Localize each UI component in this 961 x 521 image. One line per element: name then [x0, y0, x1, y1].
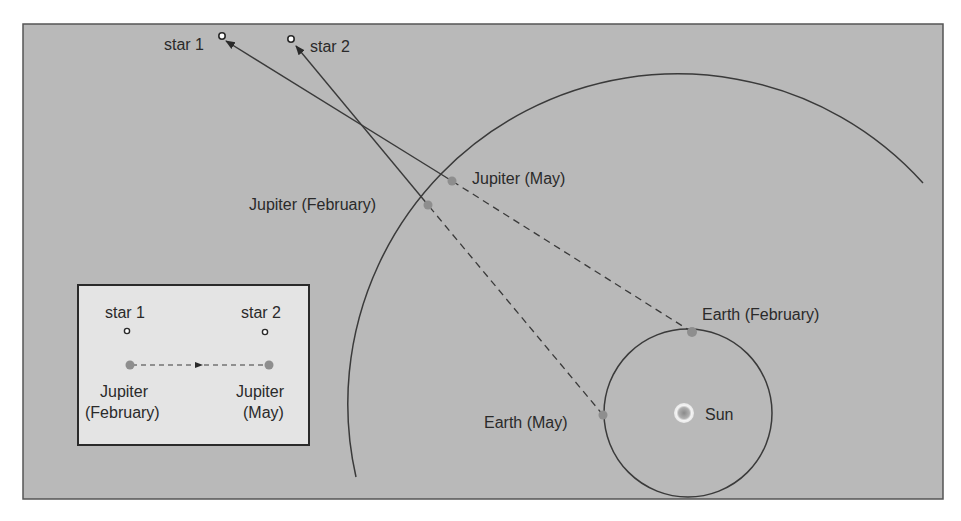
- jupiter-may-label: Jupiter (May): [472, 170, 565, 187]
- star2-icon: [288, 36, 294, 42]
- star1-label: star 1: [164, 36, 204, 53]
- earth-february-label: Earth (February): [702, 306, 819, 323]
- sun-label: Sun: [705, 406, 733, 423]
- inset-jupiter-may-label-1: Jupiter: [236, 383, 285, 400]
- retrograde-motion-diagram: star 1 star 2 Jupiter (May) Jupiter (Feb…: [0, 0, 961, 521]
- earth-may-dot: [599, 411, 608, 420]
- jupiter-may-dot: [448, 177, 457, 186]
- inset-star2-icon: [262, 329, 267, 334]
- star2-label: star 2: [310, 38, 350, 55]
- sun-icon: [674, 403, 694, 423]
- inset-star2-label: star 2: [241, 304, 281, 321]
- star1-icon: [219, 33, 225, 39]
- inset-jupiter-feb-label-1: Jupiter: [100, 383, 149, 400]
- inset-jupiter-may-label-2: (May): [243, 404, 284, 421]
- inset-jupiter-may-dot: [265, 361, 274, 370]
- jupiter-february-dot: [424, 201, 433, 210]
- inset-jupiter-feb-dot: [126, 361, 135, 370]
- inset-apparent-motion: star 1 star 2 Jupiter (February) Jupiter…: [78, 285, 309, 445]
- inset-star1-label: star 1: [105, 304, 145, 321]
- inset-jupiter-feb-label-2: (February): [85, 404, 160, 421]
- jupiter-february-label: Jupiter (February): [249, 196, 376, 213]
- earth-may-label: Earth (May): [484, 414, 568, 431]
- earth-february-dot: [687, 327, 697, 337]
- inset-star1-icon: [124, 328, 129, 333]
